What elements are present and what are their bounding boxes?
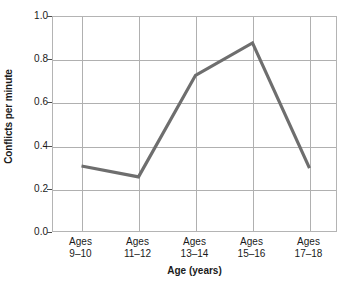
- x-axis-tick-label: Ages15–16: [238, 236, 266, 260]
- x-axis-tick-label-line: 13–14: [181, 248, 209, 260]
- x-axis-tick-label-line: Ages: [238, 236, 266, 248]
- y-axis-tick-label: 1.0: [20, 11, 48, 21]
- y-axis-tick-label: 0.8: [20, 54, 48, 64]
- y-axis-tick-mark: [47, 189, 52, 190]
- x-axis-title: Age (years): [52, 265, 337, 276]
- y-axis-tick-label: 0.6: [20, 97, 48, 107]
- x-axis-tick-label-line: Ages: [69, 236, 92, 248]
- y-axis-tick-mark: [47, 102, 52, 103]
- x-axis-tick-label-line: 9–10: [69, 248, 92, 260]
- x-axis-tick-label: Ages11–12: [124, 236, 151, 260]
- series-line-conflicts-per-minute: [82, 43, 310, 177]
- x-axis-tick-label-line: Ages: [181, 236, 209, 248]
- y-axis-tick-mark: [47, 232, 52, 233]
- y-axis-tick-label: 0.0: [20, 227, 48, 237]
- y-axis-title: Conflicts per minute: [0, 0, 16, 232]
- x-axis-tick-label-line: 15–16: [238, 248, 266, 260]
- y-axis-tick-labels: 0.00.20.40.60.81.0: [16, 0, 48, 287]
- x-axis-tick-label-line: Ages: [124, 236, 151, 248]
- x-axis-tick-label-line: 17–18: [295, 248, 323, 260]
- x-axis-tick-label: Ages9–10: [69, 236, 92, 260]
- y-axis-tick-mark: [47, 16, 52, 17]
- y-axis-tick-label: 0.2: [20, 184, 48, 194]
- y-axis-title-text: Conflicts per minute: [3, 69, 14, 164]
- x-axis-tick-label: Ages17–18: [295, 236, 323, 260]
- line-chart-figure: Conflicts per minute 0.00.20.40.60.81.0 …: [0, 0, 358, 287]
- x-axis-tick-labels: Ages9–10Ages11–12Ages13–14Ages15–16Ages1…: [52, 236, 337, 266]
- y-axis-tick-mark: [47, 59, 52, 60]
- x-axis-tick-label: Ages13–14: [181, 236, 209, 260]
- plot-area: [52, 16, 337, 232]
- x-axis-tick-label-line: 11–12: [124, 248, 151, 260]
- y-axis-tick-label: 0.4: [20, 141, 48, 151]
- series-layer: [53, 17, 338, 233]
- x-axis-tick-label-line: Ages: [295, 236, 323, 248]
- y-axis-tick-mark: [47, 146, 52, 147]
